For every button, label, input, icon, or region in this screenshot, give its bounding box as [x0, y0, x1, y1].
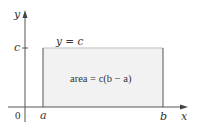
x-tick-label-b: b	[160, 110, 167, 123]
function-label: y = c	[55, 35, 83, 47]
x-tick-label-a: a	[40, 109, 47, 122]
y-axis-arrow-icon	[23, 10, 28, 18]
origin-label: 0	[15, 109, 21, 121]
area-diagram: y c 0 a b x y = c area = c(b − a)	[0, 0, 197, 132]
y-tick-label-c: c	[14, 41, 20, 54]
area-formula-label: area = c(b − a)	[70, 73, 132, 85]
x-axis-label: x	[181, 110, 188, 123]
x-axis-arrow-icon	[180, 105, 188, 110]
y-axis-label: y	[13, 8, 21, 21]
